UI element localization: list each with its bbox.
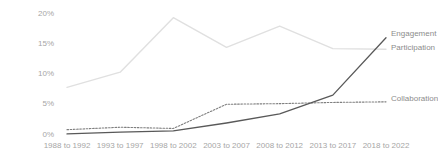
- y-axis-tick-3: 5%: [20, 99, 54, 108]
- series-engagement-group: [67, 38, 386, 134]
- y-axis-tick-1: 15%: [20, 39, 54, 48]
- y-axis-tick-4: 0%: [20, 130, 54, 139]
- series-line-collaboration: [67, 102, 386, 130]
- series-collaboration-group: [67, 102, 386, 130]
- series-label-collaboration: Collaboration: [391, 94, 438, 103]
- series-label-participation: Participation: [391, 43, 435, 52]
- y-axis-tick-0: 20%: [20, 9, 54, 18]
- series-label-engagement: Engagement: [391, 29, 436, 38]
- series-line-participation: [67, 18, 386, 88]
- x-axis-tick-6: 2018 to 2022: [354, 141, 418, 150]
- series-line-engagement: [67, 38, 386, 134]
- series-participation-group: [67, 18, 386, 88]
- y-axis-tick-2: 10%: [20, 69, 54, 78]
